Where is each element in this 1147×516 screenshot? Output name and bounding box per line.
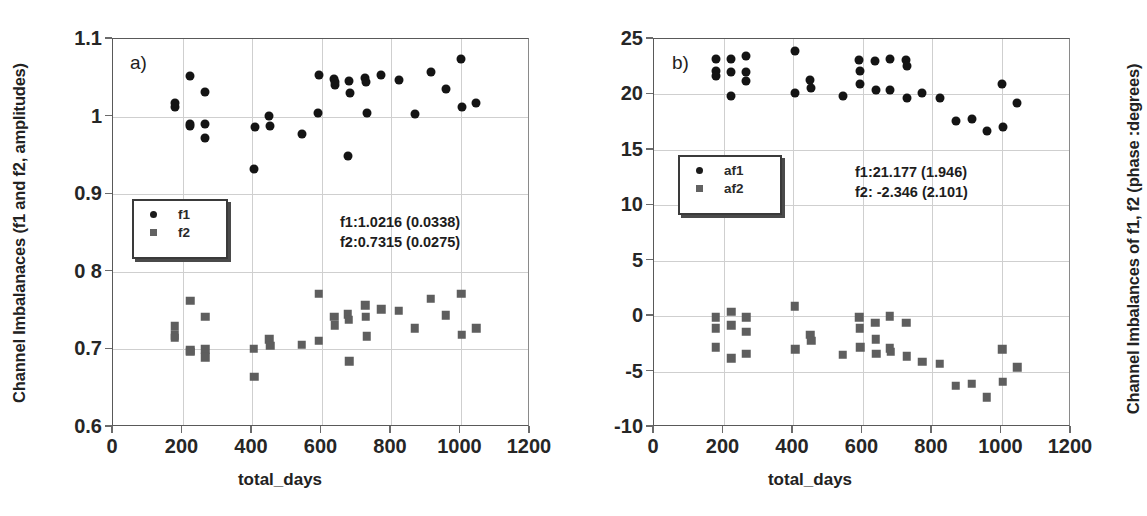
- panel-b-legend[interactable]: af1 af2: [678, 155, 782, 215]
- panel-b-y-axis-title: Channel Imbalances of f1, f2 (phase :deg…: [1116, 14, 1147, 464]
- x-axis-tick-mark: [652, 426, 653, 433]
- x-axis-tick-mark: [861, 426, 862, 433]
- data-point-af2: [983, 393, 992, 402]
- data-point-f2: [344, 316, 353, 325]
- data-point-af1: [918, 89, 927, 98]
- data-point-af1: [727, 68, 736, 77]
- data-point-af2: [727, 307, 736, 316]
- data-point-f2: [426, 295, 435, 304]
- data-point-af2: [856, 343, 865, 352]
- data-point-af1: [742, 77, 751, 86]
- data-point-af1: [967, 114, 976, 123]
- x-axis-tick-mark: [181, 426, 182, 433]
- data-point-af2: [712, 313, 721, 322]
- panel-b-statistics-annotation: f1:21.177 (1.946) f2: -2.346 (2.101): [855, 163, 968, 202]
- y-axis-tick-label: 0.7: [56, 337, 102, 360]
- y-axis-tick-mark: [646, 314, 653, 315]
- x-axis-tick-mark: [459, 426, 460, 433]
- data-point-f2: [314, 289, 323, 298]
- data-point-f1: [410, 110, 419, 119]
- x-axis-tick-label: 200: [683, 435, 763, 458]
- y-axis-tick-mark: [105, 270, 112, 271]
- x-axis-tick-mark: [389, 426, 390, 433]
- data-point-f2: [361, 301, 370, 310]
- y-axis-tick-label: 20: [597, 82, 643, 105]
- panel-b-plot-area: [653, 38, 1070, 426]
- data-point-af1: [998, 80, 1007, 89]
- data-point-f1: [441, 84, 450, 93]
- square-marker-icon: [686, 185, 712, 192]
- data-point-af2: [742, 327, 751, 336]
- data-point-f1: [201, 133, 210, 142]
- y-axis-tick-label: 1.1: [56, 27, 102, 50]
- data-point-af2: [903, 352, 912, 361]
- legend-item-f1[interactable]: f1: [140, 205, 218, 223]
- x-axis-tick-mark: [930, 426, 931, 433]
- data-point-af1: [856, 80, 865, 89]
- data-point-af1: [742, 51, 751, 60]
- data-point-f2: [266, 341, 275, 350]
- y-axis-tick-mark: [646, 204, 653, 205]
- data-point-af1: [711, 54, 720, 63]
- data-point-f2: [362, 332, 371, 341]
- x-axis-tick-mark: [1000, 426, 1001, 433]
- gridline-vertical: [322, 39, 323, 425]
- gridline-horizontal: [113, 194, 528, 195]
- data-point-af1: [807, 83, 816, 92]
- data-point-af1: [872, 85, 881, 94]
- data-point-af2: [790, 302, 799, 311]
- x-axis-tick-label: 600: [822, 435, 902, 458]
- data-point-af2: [951, 382, 960, 391]
- panel-a-statistics-annotation: f1:1.0216 (0.0338) f2:0.7315 (0.0275): [340, 213, 460, 252]
- data-point-f1: [297, 130, 306, 139]
- data-point-af1: [727, 54, 736, 63]
- data-point-af1: [902, 61, 911, 70]
- x-axis-tick-label: 1000: [420, 435, 500, 458]
- data-point-af1: [711, 71, 720, 80]
- gridline-horizontal: [654, 261, 1069, 262]
- gridline-horizontal: [113, 349, 528, 350]
- y-axis-tick-mark: [646, 259, 653, 260]
- data-point-af2: [871, 319, 880, 328]
- gridline-horizontal: [654, 372, 1069, 373]
- data-point-f2: [442, 311, 451, 320]
- data-point-f2: [457, 289, 466, 298]
- legend-item-af2[interactable]: af2: [686, 179, 772, 197]
- data-point-af1: [903, 93, 912, 102]
- data-point-f1: [362, 108, 371, 117]
- data-point-f1: [201, 119, 210, 128]
- data-point-f2: [330, 313, 339, 322]
- data-point-af2: [855, 313, 864, 322]
- gridline-horizontal: [654, 150, 1069, 151]
- data-point-af2: [742, 350, 751, 359]
- y-axis-tick-mark: [646, 148, 653, 149]
- data-point-af2: [872, 350, 881, 359]
- data-point-f1: [201, 87, 210, 96]
- data-point-af1: [742, 68, 751, 77]
- legend-item-af1[interactable]: af1: [686, 161, 772, 179]
- data-point-af2: [967, 380, 976, 389]
- x-axis-tick-label: 0: [72, 435, 152, 458]
- x-axis-tick-label: 600: [281, 435, 361, 458]
- data-point-af1: [855, 56, 864, 65]
- y-axis-tick-mark: [105, 348, 112, 349]
- y-axis-tick-label: -5: [597, 359, 643, 382]
- y-axis-tick-mark: [646, 370, 653, 371]
- data-point-f2: [171, 322, 180, 331]
- data-point-f1: [186, 119, 195, 128]
- data-point-af2: [886, 347, 895, 356]
- legend-item-label: af1: [724, 163, 748, 178]
- y-axis-tick-label: 25: [597, 27, 643, 50]
- data-point-f2: [345, 357, 354, 366]
- data-point-f1: [472, 99, 481, 108]
- data-point-f1: [266, 121, 275, 130]
- data-point-f2: [377, 305, 386, 314]
- legend-item-f2[interactable]: f2: [140, 223, 218, 241]
- data-point-f2: [201, 313, 210, 322]
- panel-a-legend[interactable]: f1 f2: [132, 199, 228, 259]
- data-point-f1: [344, 76, 353, 85]
- data-point-f1: [186, 72, 195, 81]
- data-point-f1: [250, 122, 259, 131]
- data-point-f1: [394, 76, 403, 85]
